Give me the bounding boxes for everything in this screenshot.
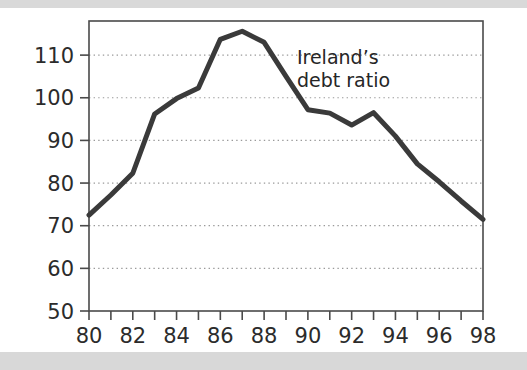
x-tick-label-80: 80 — [76, 324, 103, 348]
annotation-line-1: Ireland’s — [297, 46, 379, 68]
y-tick-label-50: 50 — [47, 300, 74, 324]
y-tick-label-70: 70 — [47, 214, 74, 238]
annotation-ireland-debt-ratio: Ireland’s debt ratio — [297, 46, 390, 91]
y-tick-label-60: 60 — [47, 257, 74, 281]
figure-canvas: 5060708090100110 80828486889092949698 Ir… — [0, 0, 527, 370]
y-axis-ticks — [80, 55, 89, 311]
x-tick-label-86: 86 — [207, 324, 234, 348]
y-tick-label-100: 100 — [34, 86, 74, 110]
x-tick-label-92: 92 — [338, 324, 365, 348]
plot-area-background — [89, 21, 483, 311]
x-tick-label-84: 84 — [163, 324, 190, 348]
y-tick-label-80: 80 — [47, 172, 74, 196]
annotation-line-2: debt ratio — [297, 69, 390, 91]
x-tick-label-88: 88 — [251, 324, 278, 348]
x-tick-label-94: 94 — [382, 324, 409, 348]
x-axis-ticks — [89, 311, 483, 320]
y-tick-label-110: 110 — [34, 44, 74, 68]
x-tick-label-96: 96 — [426, 324, 453, 348]
y-axis-tick-labels: 5060708090100110 — [34, 44, 74, 324]
x-tick-label-90: 90 — [295, 324, 322, 348]
y-tick-label-90: 90 — [47, 129, 74, 153]
x-tick-label-98: 98 — [470, 324, 497, 348]
x-axis-tick-labels: 80828486889092949698 — [76, 324, 497, 348]
line-chart: 5060708090100110 80828486889092949698 Ir… — [0, 0, 527, 370]
x-tick-label-82: 82 — [119, 324, 146, 348]
